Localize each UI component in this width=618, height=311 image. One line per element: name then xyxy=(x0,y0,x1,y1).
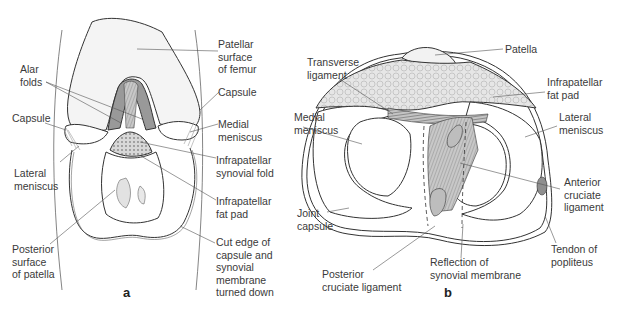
panel-letter-a: a xyxy=(123,285,130,300)
label-lateral-meniscus-b: Lateral meniscus xyxy=(559,111,603,136)
label-posterior-surface-of-patella: Posterior surface of patella xyxy=(12,243,55,281)
label-medial-meniscus-a: Medial meniscus xyxy=(218,118,262,143)
label-patellar-surface-of-femur: Patellar surface of femur xyxy=(218,38,257,76)
label-cut-edge-of-capsule: Cut edge of capsule and synovial membran… xyxy=(216,236,274,299)
label-posterior-cruciate-ligament: Posterior cruciate ligament xyxy=(322,268,401,293)
label-tendon-of-popliteus: Tendon of popliteus xyxy=(551,243,597,268)
label-infrapatellar-fat-pad-a: Infrapatellar fat pad xyxy=(216,195,271,220)
label-anterior-cruciate-ligament: Anterior cruciate ligament xyxy=(564,176,604,214)
label-reflection-of-synovial-membrane: Reflection of synovial membrane xyxy=(430,256,521,281)
label-medial-meniscus-b: Medial meniscus xyxy=(294,111,338,136)
label-infrapatellar-fat-pad-b: Infrapatellar fat pad xyxy=(547,76,602,101)
label-transverse-ligament: Transverse ligament xyxy=(307,56,359,81)
panel-a-drawing xyxy=(54,18,203,290)
label-alar-folds: Alar folds xyxy=(20,63,42,88)
label-infrapatellar-synovial-fold: Infrapatellar synovial fold xyxy=(216,154,274,179)
label-lateral-meniscus-a: Lateral meniscus xyxy=(14,167,58,192)
label-joint-capsule: Joint capsule xyxy=(297,207,333,232)
panel-letter-b: b xyxy=(444,285,452,300)
label-capsule-right: Capsule xyxy=(218,86,257,99)
label-patella: Patella xyxy=(505,43,537,56)
label-capsule-left: Capsule xyxy=(12,112,51,125)
